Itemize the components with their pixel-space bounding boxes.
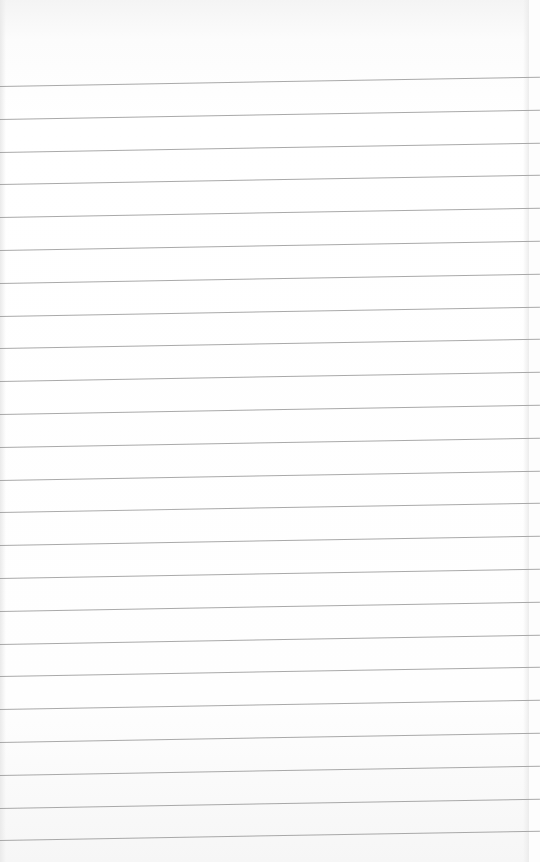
paper-shadow-left — [0, 0, 6, 862]
